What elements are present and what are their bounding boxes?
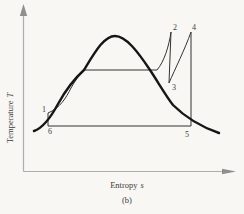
state-label-4: 4 <box>192 23 196 32</box>
y-axis-arrow-icon <box>20 4 27 16</box>
ts-diagram-figure: 1 2 3 4 5 6 TemperatureT Entropys (b) <box>0 0 244 214</box>
y-axis-label-word: Temperature <box>5 100 15 143</box>
figure-caption: (b) <box>122 195 132 205</box>
state-label-3: 3 <box>172 83 176 92</box>
x-axis-label-symbol: s <box>141 180 145 190</box>
state-label-2: 2 <box>173 23 177 32</box>
state-label-5: 5 <box>185 130 189 139</box>
x-axis-label-word: Entropy <box>110 180 138 190</box>
y-axis-label: TemperatureT <box>5 91 15 143</box>
y-axis-label-symbol: T <box>5 91 15 97</box>
x-axis-arrow-icon <box>222 169 236 175</box>
state-label-1: 1 <box>42 105 46 114</box>
state-label-6: 6 <box>48 127 52 136</box>
x-axis-label: Entropys <box>110 180 144 190</box>
ts-diagram-canvas: 1 2 3 4 5 6 TemperatureT Entropys (b) <box>0 0 244 214</box>
cycle-path <box>48 32 191 126</box>
